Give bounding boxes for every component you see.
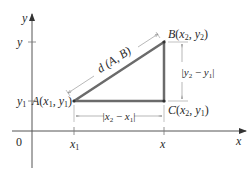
origin-label: 0 xyxy=(16,135,22,149)
distance-diagram: y x 0 y y1 x1 x d (A, B) |x2 − x1| |y2 −… xyxy=(0,0,251,171)
y2-tick-label: y xyxy=(16,35,23,49)
point-c-label: C(x2, y1) xyxy=(168,103,209,118)
x2-tick-label: x xyxy=(159,137,166,151)
hypotenuse-label: d (A, B) xyxy=(94,44,133,76)
x-axis-label: x xyxy=(235,134,242,148)
horizontal-distance-label: |x2 − x1| xyxy=(103,110,136,124)
x1-tick-label: x1 xyxy=(69,137,79,152)
y-axis-label: y xyxy=(21,11,28,25)
y1-tick-label: y1 xyxy=(16,94,26,109)
point-a-label: A(x1, y1) xyxy=(31,94,72,109)
vertical-distance-label: |y2 − y1| xyxy=(182,66,215,80)
point-b-label: B(x2, y2) xyxy=(168,27,208,42)
point-c xyxy=(162,99,165,102)
hypotenuse-dim-line-upper xyxy=(138,34,158,47)
point-b xyxy=(162,40,165,43)
point-a xyxy=(72,99,75,102)
